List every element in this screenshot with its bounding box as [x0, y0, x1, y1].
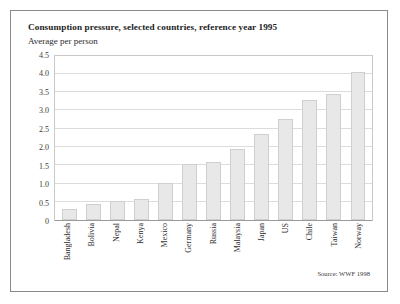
x-axis-tick-label: Taiwan	[331, 223, 339, 246]
bar[interactable]	[62, 209, 77, 220]
bar-slot	[105, 55, 129, 220]
x-axis-tick-label: Chile	[306, 223, 314, 240]
chart-title: Consumption pressure, selected countries…	[28, 22, 277, 32]
plot-wrapper: 4.54.03.53.02.52.01.51.00.50 BangladeshB…	[28, 55, 373, 235]
x-label-slot: Russia	[201, 223, 225, 293]
chart-subtitle: Average per person	[28, 36, 98, 46]
bars-layer	[55, 55, 372, 220]
bar[interactable]	[206, 162, 221, 220]
x-axis-tick-label: Mexico	[161, 223, 169, 247]
x-label-slot: Chile	[298, 223, 322, 293]
bar-slot	[57, 55, 81, 220]
x-label-slot: Nepal	[104, 223, 128, 293]
x-axis-tick-label: Kenya	[137, 223, 145, 244]
x-label-slot: Kenya	[129, 223, 153, 293]
bar[interactable]	[351, 72, 366, 220]
bar[interactable]	[326, 94, 341, 220]
bar[interactable]	[158, 183, 173, 220]
bar-slot	[129, 55, 153, 220]
x-label-slot: Mexico	[153, 223, 177, 293]
x-label-slot: Taiwan	[323, 223, 347, 293]
x-label-slot: Bangladesh	[56, 223, 80, 293]
x-axis-tick-label: Malaysia	[234, 223, 242, 252]
y-axis-tick-label: 3.5	[39, 87, 49, 96]
bar[interactable]	[182, 164, 197, 220]
x-label-slot: Germany	[177, 223, 201, 293]
figure-card: Consumption pressure, selected countries…	[10, 10, 388, 292]
y-axis-tick-label: 4.0	[39, 69, 49, 78]
y-axis: 4.54.03.53.02.52.01.51.00.50	[28, 55, 52, 221]
bar-slot	[346, 55, 370, 220]
bar[interactable]	[134, 199, 149, 220]
x-axis-tick-label: Germany	[185, 223, 193, 253]
x-axis-tick-label: Bolivia	[88, 223, 96, 247]
x-label-slot: Malaysia	[226, 223, 250, 293]
y-axis-tick-label: 1.5	[39, 161, 49, 170]
bar[interactable]	[302, 100, 317, 220]
bar-slot	[81, 55, 105, 220]
y-axis-tick-label: 0	[45, 217, 49, 226]
x-axis-tick-label: Japan	[258, 223, 266, 241]
y-axis-tick-label: 4.5	[39, 51, 49, 60]
bar-slot	[274, 55, 298, 220]
x-axis-labels: BangladeshBoliviaNepalKenyaMexicoGermany…	[54, 223, 373, 293]
bar-slot	[250, 55, 274, 220]
bar[interactable]	[110, 201, 125, 220]
x-axis-tick-label: Russia	[210, 223, 218, 244]
bar-slot	[226, 55, 250, 220]
bar-slot	[201, 55, 225, 220]
bar[interactable]	[86, 204, 101, 221]
x-label-slot: Norway	[347, 223, 371, 293]
x-axis-tick-label: Bangladesh	[64, 223, 72, 260]
x-label-slot: Bolivia	[80, 223, 104, 293]
y-axis-tick-label: 0.5	[39, 198, 49, 207]
x-axis-tick-label: Nepal	[113, 223, 121, 242]
y-axis-tick-label: 2.0	[39, 143, 49, 152]
x-label-slot: Japan	[250, 223, 274, 293]
y-axis-tick-label: 1.0	[39, 180, 49, 189]
bar[interactable]	[254, 134, 269, 220]
x-axis-tick-label: Norway	[355, 223, 363, 249]
y-axis-tick-label: 3.0	[39, 106, 49, 115]
x-axis-tick-label: US	[282, 223, 290, 233]
bar-slot	[177, 55, 201, 220]
y-axis-tick-label: 2.5	[39, 124, 49, 133]
bar[interactable]	[230, 149, 245, 221]
x-label-slot: US	[274, 223, 298, 293]
bar[interactable]	[278, 119, 293, 220]
plot-area	[54, 55, 373, 221]
source-note: Source: WWF 1998	[317, 270, 370, 277]
bar-slot	[298, 55, 322, 220]
bar-slot	[153, 55, 177, 220]
bar-slot	[322, 55, 346, 220]
